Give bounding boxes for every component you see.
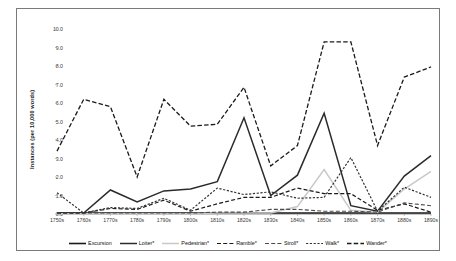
x-tick-label: 1750s <box>42 217 72 223</box>
legend-item-ramble[interactable]: Ramble* <box>217 240 257 246</box>
legend-item-wander[interactable]: Wander* <box>347 240 387 246</box>
x-tick-label: 1820s <box>229 217 259 223</box>
line-chart-svg <box>17 9 441 252</box>
chart-legend: ExcursionLoiter*Pedestrian*Ramble*Stroll… <box>17 240 439 246</box>
legend-label: Excursion <box>88 240 112 246</box>
x-tick-label: 1870s <box>363 217 393 223</box>
legend-swatch-icon <box>69 241 86 245</box>
legend-label: Ramble* <box>236 240 257 246</box>
legend-label: Wander* <box>366 240 387 246</box>
chart-frame: Instances (per 10,000 words) 0.01.02.03.… <box>16 8 440 251</box>
x-axis-tick-labels: 1750s1760s1770s1780s1790s1800s1810s1820s… <box>17 217 439 229</box>
x-tick-label: 1880s <box>389 217 419 223</box>
legend-swatch-icon <box>217 241 234 245</box>
series-line-wander <box>57 42 431 177</box>
legend-swatch-icon <box>306 241 323 245</box>
series-line-loiter <box>57 113 431 213</box>
legend-item-pedestrian[interactable]: Pedestrian* <box>162 240 209 246</box>
legend-item-stroll[interactable]: Stroll* <box>265 240 298 246</box>
legend-label: Stroll* <box>284 240 298 246</box>
x-tick-label: 1840s <box>282 217 312 223</box>
x-tick-label: 1780s <box>122 217 152 223</box>
legend-label: Loiter* <box>139 240 155 246</box>
x-tick-label: 1890s <box>416 217 446 223</box>
x-tick-label: 1860s <box>336 217 366 223</box>
series-line-walk <box>57 158 431 214</box>
legend-swatch-icon <box>265 241 282 245</box>
legend-swatch-icon <box>120 241 137 245</box>
legend-label: Pedestrian* <box>181 240 209 246</box>
x-tick-label: 1770s <box>95 217 125 223</box>
legend-label: Walk* <box>325 240 339 246</box>
x-tick-label: 1850s <box>309 217 339 223</box>
legend-swatch-icon <box>347 241 364 245</box>
x-tick-label: 1760s <box>69 217 99 223</box>
legend-item-walk[interactable]: Walk* <box>306 240 339 246</box>
x-tick-label: 1790s <box>149 217 179 223</box>
legend-item-loiter[interactable]: Loiter* <box>120 240 155 246</box>
legend-item-excursion[interactable]: Excursion <box>69 240 112 246</box>
plot-area <box>17 9 439 250</box>
x-tick-label: 1830s <box>256 217 286 223</box>
legend-swatch-icon <box>162 241 179 245</box>
x-tick-label: 1800s <box>176 217 206 223</box>
x-tick-label: 1810s <box>202 217 232 223</box>
